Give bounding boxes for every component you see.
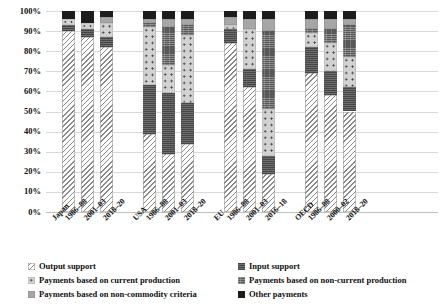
legend-column-left: Output supportPayments based on current … xyxy=(28,259,238,301)
y-tick-label: 100% xyxy=(0,7,41,16)
bar-segment xyxy=(243,69,256,87)
bar-segment xyxy=(324,11,337,19)
bar-usa-2018-20 xyxy=(181,11,194,212)
bar-segment xyxy=(343,87,356,111)
y-tick-label: 10% xyxy=(0,187,41,196)
bar-segment xyxy=(162,27,175,65)
stacked-bar-chart: 0%10%20%30%40%50%60%70%80%90%100% Japan1… xyxy=(0,0,445,304)
bar-segment xyxy=(143,85,156,133)
bar-segment xyxy=(100,17,113,23)
bar-segment xyxy=(143,23,156,27)
bar-segment xyxy=(224,29,237,43)
bar-segment xyxy=(181,35,194,103)
legend-label: Input support xyxy=(249,262,300,271)
bar-segment xyxy=(262,19,275,31)
bar-segment xyxy=(243,29,256,69)
legend-item[interactable]: Other payments xyxy=(238,287,445,301)
legend-item[interactable]: Output support xyxy=(28,259,238,273)
bar-segment xyxy=(181,11,194,19)
y-tick-label: 0% xyxy=(0,208,41,217)
bar-segment xyxy=(143,27,156,85)
bar-segment xyxy=(81,11,94,23)
other-payments-swatch xyxy=(238,291,245,298)
y-tick-label: 60% xyxy=(0,87,41,96)
bar-segment xyxy=(243,87,256,212)
legend-label: Other payments xyxy=(249,290,308,299)
bar-segment xyxy=(324,71,337,95)
y-tick-label: 50% xyxy=(0,107,41,116)
output-support-swatch xyxy=(28,263,35,270)
legend-label: Output support xyxy=(39,262,96,271)
input-support-swatch xyxy=(238,263,245,270)
bar-segment xyxy=(62,11,75,19)
bar-segment xyxy=(162,11,175,19)
chart-legend: Output supportPayments based on current … xyxy=(0,259,445,304)
bar-segment xyxy=(305,73,318,212)
bar-segment xyxy=(162,19,175,27)
bar-segment xyxy=(100,23,113,37)
bar-segment xyxy=(162,93,175,153)
bar-segment xyxy=(305,11,318,19)
bar-segment xyxy=(262,31,275,109)
legend-item[interactable]: Payments based on non-current production xyxy=(238,273,445,287)
current-production-swatch xyxy=(28,277,35,284)
bar-segment xyxy=(81,37,94,212)
y-tick-label: 90% xyxy=(0,27,41,36)
legend-label: Payments based on non-commodity criteria xyxy=(39,290,197,299)
bar-segment xyxy=(262,109,275,155)
x-axis-labels: Japan1986–882001–032018–20USA1986–882001… xyxy=(46,212,438,258)
bar-oecd-2000-02 xyxy=(324,11,337,212)
bar-segment xyxy=(343,57,356,87)
bar-segment xyxy=(81,29,94,37)
bar-segment xyxy=(305,29,318,33)
bar-usa-1986-88 xyxy=(143,11,156,212)
bar-segment xyxy=(181,19,194,25)
bar-segment xyxy=(143,134,156,212)
non-commodity-swatch xyxy=(28,291,35,298)
legend-item[interactable]: Payments based on current production xyxy=(28,273,238,287)
bar-segment xyxy=(224,25,237,29)
bar-segment xyxy=(181,103,194,143)
y-axis-labels: 0%10%20%30%40%50%60%70%80%90%100% xyxy=(0,11,44,212)
non-current-production-swatch xyxy=(238,277,245,284)
legend-label: Payments based on current production xyxy=(39,276,180,285)
bar-usa-2001-03 xyxy=(162,11,175,212)
bar-segment xyxy=(143,11,156,19)
bar-segment xyxy=(224,11,237,17)
plot-area xyxy=(46,11,438,212)
bar-segment xyxy=(100,11,113,17)
bar-segment xyxy=(324,43,337,71)
bar-eu-1986-88 xyxy=(224,11,237,212)
bar-segment xyxy=(324,29,337,43)
bar-segment xyxy=(100,37,113,47)
bar-segment xyxy=(62,19,75,25)
bar-segment xyxy=(243,11,256,19)
bar-japan-2001-03 xyxy=(81,11,94,212)
bar-segment xyxy=(162,65,175,93)
bar-segment xyxy=(62,25,75,31)
bar-segment xyxy=(224,43,237,212)
bar-eu-2016-18 xyxy=(262,11,275,212)
bar-segment xyxy=(181,25,194,35)
bar-eu-2001-03 xyxy=(243,11,256,212)
bar-segment xyxy=(143,19,156,23)
bar-segment xyxy=(324,95,337,212)
bar-oecd-1986-88 xyxy=(305,11,318,212)
bar-segment xyxy=(100,47,113,212)
bar-segment xyxy=(62,31,75,212)
y-tick-label: 30% xyxy=(0,147,41,156)
bar-segment xyxy=(305,19,318,29)
legend-item[interactable]: Payments based on non-commodity criteria xyxy=(28,287,238,301)
bar-segment xyxy=(305,47,318,73)
legend-label: Payments based on non-current production xyxy=(249,276,406,285)
y-tick-label: 80% xyxy=(0,47,41,56)
bar-segment xyxy=(262,156,275,174)
y-tick-label: 40% xyxy=(0,127,41,136)
bar-japan-2018-20 xyxy=(100,11,113,212)
y-tick-label: 20% xyxy=(0,167,41,176)
bar-segment xyxy=(343,19,356,25)
bar-segment xyxy=(343,25,356,57)
legend-item[interactable]: Input support xyxy=(238,259,445,273)
bar-segment xyxy=(262,11,275,19)
bar-segment xyxy=(224,17,237,25)
